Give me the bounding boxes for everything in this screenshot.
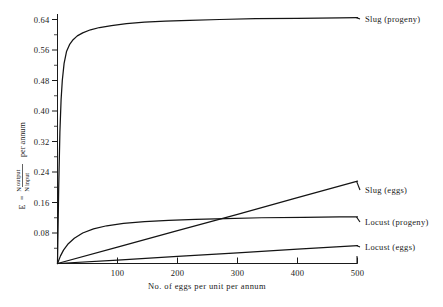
series-labels: Slug (progeny)Slug (eggs)Locust (progeny… bbox=[365, 14, 429, 252]
y-axis-label-denominator-word: input bbox=[23, 173, 30, 186]
leader-line bbox=[357, 246, 361, 247]
series-line-slug-eggs bbox=[58, 181, 358, 263]
y-axis-label: E = N output N input per annum bbox=[14, 122, 31, 210]
leader-line bbox=[357, 181, 361, 190]
y-axis-label-symbol: E bbox=[18, 204, 27, 209]
series-leader-lines bbox=[357, 18, 361, 247]
x-tick-label: 500 bbox=[351, 268, 364, 278]
y-tick-label: 0.16 bbox=[34, 198, 50, 208]
y-axis-label-equals: = bbox=[18, 195, 27, 200]
series-label-slug-eggs: Slug (eggs) bbox=[365, 185, 407, 195]
y-axis-label-suffix: per annum bbox=[18, 122, 27, 157]
y-axis-ticks: 0.080.160.240.320.400.480.560.64 bbox=[34, 15, 58, 249]
y-tick-label: 0.56 bbox=[34, 45, 50, 55]
series-label-locust-eggs: Locust (eggs) bbox=[365, 242, 415, 252]
y-tick-label: 0.24 bbox=[34, 167, 50, 177]
chart-canvas: E = N output N input per annum 0.080.160… bbox=[0, 0, 443, 307]
x-tick-label: 200 bbox=[171, 268, 184, 278]
series-label-locust-progeny: Locust (progeny) bbox=[365, 217, 429, 227]
series-label-slug-progeny: Slug (progeny) bbox=[365, 14, 420, 24]
chart-figure: E = N output N input per annum 0.080.160… bbox=[0, 0, 443, 307]
series-curves bbox=[58, 18, 358, 264]
x-tick-label: 400 bbox=[291, 268, 304, 278]
y-tick-label: 0.48 bbox=[34, 76, 50, 86]
y-axis-label-numerator-n: N bbox=[15, 187, 22, 192]
series-line-locust-eggs bbox=[58, 246, 358, 264]
x-axis-ticks: 100200300400500 bbox=[111, 258, 364, 278]
y-axis-label-denominator-n: N bbox=[23, 187, 30, 192]
y-tick-label: 0.64 bbox=[34, 15, 50, 25]
series-line-locust-progeny bbox=[58, 217, 358, 264]
y-axis-label-numerator-word: output bbox=[14, 169, 21, 186]
x-tick-label: 100 bbox=[111, 268, 124, 278]
x-axis-title: No. of eggs per unit per annum bbox=[148, 281, 266, 291]
y-tick-label: 0.32 bbox=[34, 137, 50, 147]
leader-line bbox=[357, 18, 361, 19]
y-tick-label: 0.40 bbox=[34, 106, 50, 116]
leader-line bbox=[357, 217, 361, 222]
y-tick-label: 0.08 bbox=[34, 228, 50, 238]
x-tick-label: 300 bbox=[231, 268, 244, 278]
